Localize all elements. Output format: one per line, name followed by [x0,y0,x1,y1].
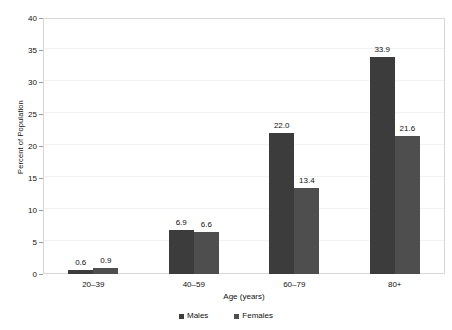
y-tick-label: 35 [0,45,43,56]
y-tick-label: 0 [0,269,43,280]
bar-value-label: 21.6 [400,124,416,134]
x-axis-title: Age (years) [43,292,445,301]
bar-males-60–79: 22.0 [269,133,294,274]
x-tick-label: 40–59 [144,279,245,290]
y-tick-label: 40 [0,13,43,24]
bar-males-80+: 33.9 [370,57,395,274]
legend-label: Females [242,311,273,321]
bar-chart: Percent of Population 0510152025303540 0… [0,0,452,330]
y-tick-label: 25 [0,109,43,120]
y-tick-label: 15 [0,173,43,184]
legend-label: Males [187,311,208,321]
legend-item-females[interactable]: Females [234,311,273,321]
y-tick-label: 10 [0,205,43,216]
bar-value-label: 13.4 [299,176,315,186]
bar-group: 6.96.6 [169,18,219,274]
bar-group: 0.60.9 [68,18,118,274]
y-tick-label: 5 [0,237,43,248]
bar-value-label: 22.0 [274,121,290,131]
legend-item-males[interactable]: Males [179,311,208,321]
bar-females-60–79: 13.4 [294,188,319,274]
y-tick-label: 30 [0,77,43,88]
bar-value-label: 0.6 [75,258,86,268]
bar-value-label: 33.9 [374,45,390,55]
legend-swatch-icon [234,314,239,319]
bar-females-40–59: 6.6 [194,232,219,274]
bar-males-20–39: 0.6 [68,270,93,274]
y-tick-label: 20 [0,141,43,152]
bar-group: 22.013.4 [269,18,319,274]
x-tick-label: 80+ [345,279,446,290]
x-tick-label: 60–79 [244,279,345,290]
x-tick-label: 20–39 [43,279,144,290]
legend-swatch-icon [179,314,184,319]
bar-value-label: 0.9 [100,256,111,266]
bars-layer: 0.60.96.96.622.013.433.921.6 [43,18,445,274]
bar-group: 33.921.6 [370,18,420,274]
bar-males-40–59: 6.9 [169,230,194,274]
bar-females-20–39: 0.9 [93,268,118,274]
chart-legend: MalesFemales [0,311,452,321]
bar-value-label: 6.9 [176,218,187,228]
bar-value-label: 6.6 [201,220,212,230]
bar-females-80+: 21.6 [395,136,420,274]
